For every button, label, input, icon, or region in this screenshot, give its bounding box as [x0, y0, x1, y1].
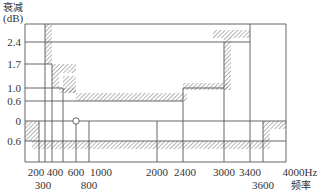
y-tick-label: 0.6 [7, 135, 21, 147]
x-tick-labels-row1: 200 400 600 1000 2000 2400 3000 3400 400… [28, 166, 318, 178]
x-tick-labels-row2: 300 800 3600 [35, 179, 275, 191]
attenuation-frequency-chart: 衰减 (dB) 2.4 1.7 1.0 0.6 0 0.6 [0, 0, 322, 192]
x-tick-label: 3600 [252, 179, 275, 191]
x-tick-label: 2000 [146, 166, 169, 178]
y-tick-labels: 2.4 1.7 1.0 0.6 0 0.6 [7, 36, 21, 147]
x-tick-label: 2400 [174, 166, 197, 178]
x-tick-label: 800 [81, 179, 98, 191]
y-tick-label: 1.7 [7, 58, 21, 70]
x-tick-label: 3400 [239, 166, 262, 178]
x-tick-label: 4000Hz [283, 166, 318, 178]
upper-mask-hatch [45, 24, 250, 101]
y-tick-label: 0 [16, 115, 22, 127]
y-tick-label: 2.4 [7, 36, 21, 48]
lower-mask-hatch [25, 121, 286, 149]
x-tick-label: 1000 [90, 166, 113, 178]
x-tick-label: 600 [68, 166, 85, 178]
y-axis-title-line2: (dB) [3, 12, 24, 25]
y-tick-label: 1.0 [7, 82, 21, 94]
x-tick-label: 400 [47, 166, 64, 178]
x-tick-label: 3000 [213, 166, 236, 178]
y-tick-label: 0.6 [7, 95, 21, 107]
x-axis-title: 频率 [291, 179, 311, 191]
x-tick-label: 300 [35, 179, 52, 191]
reference-point-marker [73, 118, 79, 124]
x-tick-label: 200 [28, 166, 45, 178]
